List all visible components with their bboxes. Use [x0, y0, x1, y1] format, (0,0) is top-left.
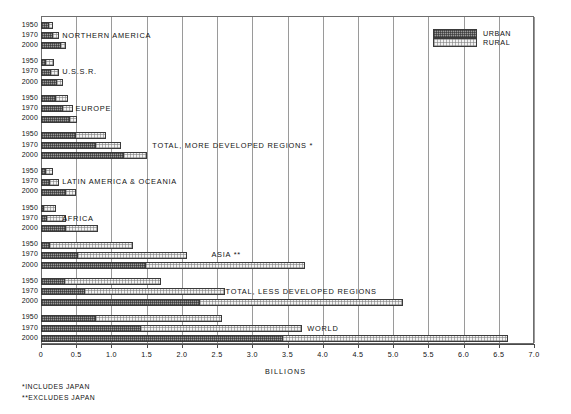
group-label: WORLD — [307, 324, 338, 333]
bar-segment-urban — [41, 225, 66, 232]
bar-segment-urban — [41, 335, 283, 342]
group-label: TOTAL, MORE DEVELOPED REGIONS * — [152, 141, 313, 150]
gridline — [534, 17, 535, 343]
x-tick-label: 0 — [39, 350, 43, 359]
bar-stack — [41, 69, 59, 76]
bar-segment-urban — [41, 152, 124, 159]
bar-segment-rural — [62, 105, 74, 112]
x-tick-label: 4.5 — [352, 350, 363, 359]
year-label: 2000 — [12, 41, 38, 48]
year-label: 1970 — [12, 287, 38, 294]
x-tick — [393, 344, 394, 348]
bar-segment-rural — [140, 325, 302, 332]
year-label: 1950 — [12, 277, 38, 284]
bar-segment-rural — [60, 42, 65, 49]
bar-stack — [41, 205, 56, 212]
bar-stack — [41, 152, 147, 159]
bar-segment-urban — [41, 189, 66, 196]
bar-stack — [41, 79, 63, 86]
footnote-excludes-japan: **EXCLUDES JAPAN — [22, 394, 95, 401]
bar-segment-rural — [49, 242, 133, 249]
bar-segment-rural — [43, 205, 57, 212]
bar-segment-rural — [69, 116, 77, 123]
bar-stack — [41, 252, 187, 259]
population-bar-chart: 00.51.01.52.02.53.03.54.04.55.05.56.06.5… — [0, 0, 571, 414]
bar-segment-rural — [50, 69, 59, 76]
year-label: 2000 — [12, 151, 38, 158]
year-label: 1970 — [12, 104, 38, 111]
bar-segment-rural — [65, 189, 76, 196]
bar-segment-urban — [41, 288, 85, 295]
bar-segment-rural — [77, 252, 187, 259]
legend-swatch-urban — [433, 29, 477, 38]
group-label: EUROPE — [76, 104, 112, 113]
group-label: LATIN AMERICA & OCEANIA — [62, 177, 177, 186]
group-label: TOTAL, LESS DEVELOPED REGIONS — [226, 287, 377, 296]
x-tick-label: 3.5 — [282, 350, 293, 359]
x-tick — [428, 344, 429, 348]
year-label: 1950 — [12, 240, 38, 247]
x-tick-label: 0.5 — [71, 350, 82, 359]
bar-stack — [41, 335, 508, 342]
bar-stack — [41, 288, 225, 295]
x-tick — [288, 344, 289, 348]
bar-stack — [41, 59, 54, 66]
x-tick-label: 2.5 — [212, 350, 223, 359]
bar-segment-urban — [41, 105, 63, 112]
x-tick-label: 5.5 — [423, 350, 434, 359]
x-axis-title: BILLIONS — [0, 367, 571, 376]
bar-segment-rural — [56, 79, 63, 86]
bar-segment-rural — [95, 315, 222, 322]
x-tick-label: 4.0 — [317, 350, 328, 359]
bar-segment-rural — [64, 278, 161, 285]
bar-stack — [41, 299, 403, 306]
year-label: 1950 — [12, 313, 38, 320]
x-tick-label: 7.0 — [529, 350, 540, 359]
x-tick — [464, 344, 465, 348]
gridline — [499, 17, 500, 343]
bar-stack — [41, 179, 59, 186]
bar-stack — [41, 225, 98, 232]
bar-segment-rural — [199, 299, 403, 306]
year-label: 2000 — [12, 78, 38, 85]
bar-segment-urban — [41, 79, 57, 86]
year-label: 1950 — [12, 130, 38, 137]
bar-segment-urban — [41, 42, 61, 49]
bar-stack — [41, 242, 133, 249]
year-label: 2000 — [12, 297, 38, 304]
bar-stack — [41, 95, 68, 102]
year-label: 1950 — [12, 21, 38, 28]
bar-stack — [41, 278, 161, 285]
bar-segment-rural — [282, 335, 508, 342]
year-label: 1950 — [12, 94, 38, 101]
footnote-includes-japan: *INCLUDES JAPAN — [22, 383, 90, 390]
x-tick — [111, 344, 112, 348]
group-label: ASIA ** — [211, 250, 241, 259]
year-label: 1950 — [12, 167, 38, 174]
year-label: 2000 — [12, 224, 38, 231]
year-label: 1970 — [12, 250, 38, 257]
x-tick — [358, 344, 359, 348]
bar-segment-urban — [41, 142, 96, 149]
year-label: 1970 — [12, 324, 38, 331]
x-tick-label: 1.0 — [106, 350, 117, 359]
year-label: 1970 — [12, 141, 38, 148]
year-label: 2000 — [12, 187, 38, 194]
bar-segment-urban — [41, 252, 78, 259]
gridline — [464, 17, 465, 343]
bar-stack — [41, 315, 222, 322]
year-label: 1970 — [12, 177, 38, 184]
bar-segment-rural — [55, 95, 68, 102]
bar-segment-rural — [52, 32, 59, 39]
year-label: 1970 — [12, 214, 38, 221]
year-label: 1970 — [12, 31, 38, 38]
x-tick — [252, 344, 253, 348]
bar-stack — [41, 189, 76, 196]
x-tick — [534, 344, 535, 348]
group-label: NORTHERN AMERICA — [62, 31, 151, 40]
year-label: 2000 — [12, 261, 38, 268]
bar-stack — [41, 42, 66, 49]
bar-segment-rural — [145, 262, 305, 269]
legend-label-rural: RURAL — [483, 38, 510, 47]
bar-stack — [41, 132, 106, 139]
